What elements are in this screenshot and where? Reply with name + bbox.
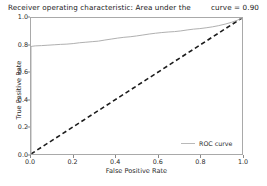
x-tick-label-2: 0.4 <box>110 158 120 166</box>
roc-chart-figure: Receiver operating characteristic: Area … <box>0 0 267 186</box>
chart-title-row: Receiver operating characteristic: Area … <box>0 1 267 14</box>
page-title: Receiver operating characteristic: Area … <box>8 3 191 12</box>
chart-legend: ROC curve <box>178 139 235 148</box>
x-tick-mark-1 <box>73 155 74 158</box>
x-tick-label-4: 0.8 <box>195 158 205 166</box>
x-tick-mark-3 <box>158 155 159 158</box>
x-tick-mark-0 <box>30 155 31 158</box>
auc-value-label: curve = 0.90 <box>211 3 259 12</box>
plot-area <box>30 17 243 155</box>
legend-label-roc-curve: ROC curve <box>199 140 232 147</box>
plot-svg <box>31 18 242 154</box>
x-tick-label-3: 0.6 <box>153 158 163 166</box>
chance-diagonal-line <box>31 18 242 154</box>
x-tick-label-5: 1.0 <box>238 158 248 166</box>
x-tick-label-0: 0.0 <box>25 158 35 166</box>
x-tick-mark-2 <box>115 155 116 158</box>
x-tick-mark-4 <box>200 155 201 158</box>
x-tick-mark-5 <box>243 155 244 158</box>
legend-swatch-roc-curve <box>181 143 195 144</box>
x-axis-label: False Positive Rate <box>30 167 243 175</box>
y-axis-label: True Positive Rate <box>15 35 23 145</box>
x-tick-label-1: 0.2 <box>68 158 78 166</box>
